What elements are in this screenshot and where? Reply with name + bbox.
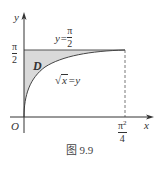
- hline-lhs: y=: [55, 32, 67, 44]
- y-tick-numerator: π: [12, 42, 17, 52]
- hline-fraction: π 2: [67, 26, 72, 49]
- y-axis-label: y: [14, 12, 19, 23]
- sqrt-arg: x: [61, 74, 68, 86]
- curve-label: √ x =y: [55, 74, 80, 86]
- y-tick-denominator: 2: [12, 55, 17, 65]
- x-tick-num-sup: 2: [123, 119, 127, 127]
- hline-denominator: 2: [67, 39, 72, 49]
- x-axis-label: x: [144, 120, 149, 131]
- origin-label: O: [11, 121, 19, 132]
- curve-label-rest: =y: [68, 74, 80, 86]
- figure-caption: 图 9.9: [0, 141, 159, 157]
- x-tick-numerator: π2: [118, 120, 127, 131]
- y-tick-pi-over-2: π 2: [12, 42, 17, 65]
- horizontal-line-label: y= π 2: [55, 26, 72, 49]
- region-d-label: D: [33, 60, 42, 72]
- hline-numerator: π: [67, 26, 72, 36]
